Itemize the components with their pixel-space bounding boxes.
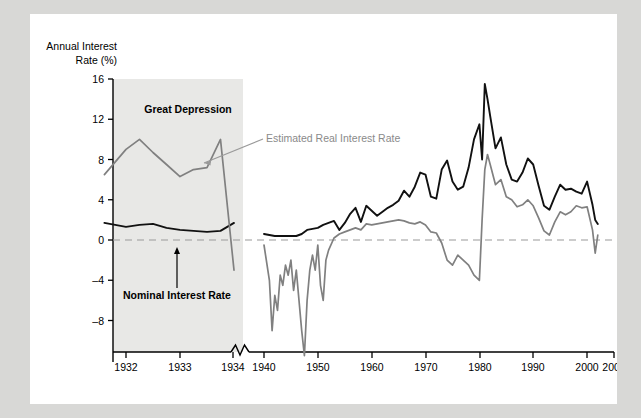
x-tick-label: 1970	[414, 361, 438, 373]
y-tick-label: 8	[98, 154, 104, 166]
interest-rate-line-chart: 1612840–4–819321933193419401950196019701…	[30, 14, 617, 404]
x-tick-label: 2005	[602, 361, 617, 373]
x-tick-label: 1940	[252, 361, 276, 373]
y-tick-label: 0	[98, 234, 104, 246]
y-axis-title-line-1: Annual Interest	[46, 40, 117, 52]
great-depression-shaded-region	[113, 79, 243, 352]
y-tick-label: 16	[92, 73, 104, 85]
x-tick-label: 1934	[221, 361, 245, 373]
x-tick-label: 2000	[575, 361, 599, 373]
nominal-interest-rate-line-segment-2	[264, 84, 598, 236]
y-tick-label: –4	[92, 274, 104, 286]
nominal-interest-rate-label: Nominal Interest Rate	[123, 289, 231, 301]
x-tick-label: 1950	[306, 361, 330, 373]
x-tick-label: 1932	[114, 361, 138, 373]
great-depression-label: Great Depression	[144, 103, 232, 115]
x-tick-label: 1933	[168, 361, 192, 373]
chart-container: 1612840–4–819321933193419401950196019701…	[30, 14, 617, 404]
x-tick-label: 1960	[360, 361, 384, 373]
y-tick-label: 4	[98, 194, 104, 206]
y-axis-title-line-2: Rate (%)	[76, 54, 117, 66]
y-tick-label: 12	[92, 113, 104, 125]
x-tick-label: 1990	[521, 361, 545, 373]
estimated-real-interest-rate-label: Estimated Real Interest Rate	[266, 132, 400, 144]
x-tick-label: 1980	[468, 361, 492, 373]
y-tick-label: –8	[92, 315, 104, 327]
figure-panel: 1612840–4–819321933193419401950196019701…	[30, 14, 617, 404]
estimated-real-interest-rate-line-segment-2	[264, 155, 598, 356]
